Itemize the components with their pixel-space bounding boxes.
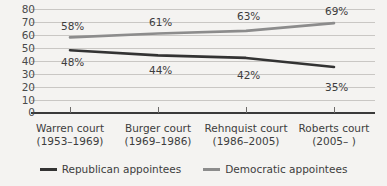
value-label-democratic-3: 69% <box>325 6 348 17</box>
value-label-democratic-2: 63% <box>237 11 260 22</box>
legend-swatch-democratic-icon <box>203 168 220 171</box>
value-label-republican-2: 42% <box>237 70 260 81</box>
legend-swatch-republican-icon <box>40 168 57 171</box>
legend-item-democratic-appointees: Democratic appointees <box>203 163 347 175</box>
x-category-label-roberts: Roberts court (2005– ) <box>279 122 387 148</box>
line-democratic-appointees <box>70 23 334 37</box>
line-chart: 80 70 60 50 40 30 20 10 0 58% 61% 63% 69… <box>0 0 387 186</box>
value-label-democratic-0: 58% <box>61 21 84 32</box>
legend-label-democratic: Democratic appointees <box>225 163 347 175</box>
value-label-republican-0: 48% <box>61 57 84 68</box>
x-category-name-roberts: Roberts court <box>279 122 387 135</box>
legend-item-republican-appointees: Republican appointees <box>40 163 182 175</box>
value-label-republican-1: 44% <box>149 65 172 76</box>
value-label-democratic-1: 61% <box>149 17 172 28</box>
legend-label-republican: Republican appointees <box>62 163 182 175</box>
line-republican-appointees <box>70 50 334 67</box>
x-category-years-roberts: (2005– ) <box>279 135 387 148</box>
series-lines <box>0 0 387 120</box>
plot-area: 80 70 60 50 40 30 20 10 0 58% 61% 63% 69… <box>0 0 387 120</box>
chart-legend: Republican appointees Democratic appoint… <box>0 163 387 175</box>
value-label-republican-3: 35% <box>325 82 348 93</box>
